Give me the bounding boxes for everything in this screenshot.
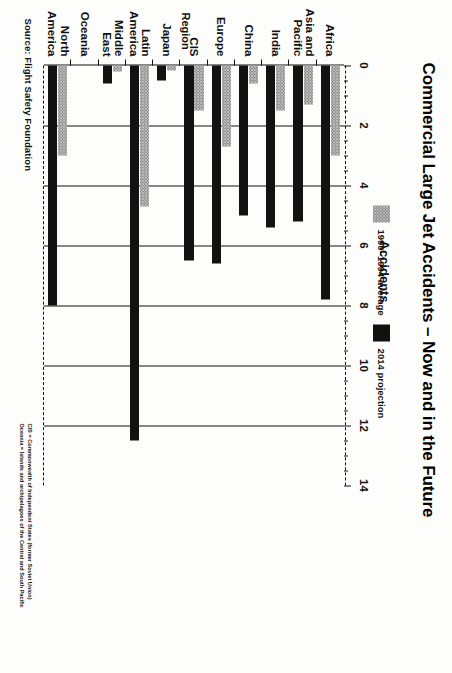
x-axis-tick-label: 10 <box>358 359 370 372</box>
x-axis-tick <box>344 125 351 126</box>
category-label: Asia and Pacific <box>291 8 316 56</box>
x-axis-minor-tick <box>344 380 349 381</box>
bar-average <box>276 65 285 110</box>
x-axis-minor-tick <box>344 290 349 291</box>
x-axis-minor-tick <box>344 275 349 276</box>
x-axis-minor-tick <box>344 170 349 171</box>
category-label: Japan <box>160 23 173 56</box>
axis-bottom-rule <box>43 65 44 485</box>
x-axis-tick <box>344 185 351 186</box>
category-label: Latin America <box>127 11 152 56</box>
legend-label: 2014 projection <box>376 348 387 418</box>
x-axis-minor-tick <box>344 80 349 81</box>
x-axis-minor-tick <box>344 200 349 201</box>
bar-projection <box>321 65 330 299</box>
x-axis-tick <box>344 365 351 366</box>
x-axis-tick-label: 6 <box>358 242 370 248</box>
bar-average <box>249 65 258 83</box>
footnote: CIS = Commonwealth of Independent States… <box>18 423 33 607</box>
x-axis-minor-tick <box>344 335 349 336</box>
bar-projection <box>48 65 57 305</box>
x-axis-tick <box>344 245 351 246</box>
category-label: North America <box>45 11 70 56</box>
category-label: Oceania <box>79 11 92 56</box>
x-axis-minor-tick <box>344 350 349 351</box>
bar-average <box>113 65 122 71</box>
bar-average <box>222 65 231 146</box>
x-axis-minor-tick <box>344 410 349 411</box>
x-axis-tick-label: 8 <box>358 302 370 308</box>
bar-average <box>167 65 176 70</box>
x-axis-tick <box>344 425 351 426</box>
x-axis-minor-tick <box>344 395 349 396</box>
footnote-line-oceania: Oceania = Islands and archipelagoes of t… <box>18 423 26 607</box>
legend-swatch-icon-light <box>373 205 390 222</box>
chart-title: Commercial Large Jet Accidents – Now and… <box>418 62 438 517</box>
x-axis-tick <box>344 65 351 66</box>
y-axis-tick <box>70 59 71 65</box>
bar-projection <box>130 65 139 440</box>
bar-projection <box>184 65 193 260</box>
category-label: Middle East <box>100 20 125 56</box>
x-axis-minor-tick <box>344 320 349 321</box>
x-axis-label: Accidents <box>377 240 392 302</box>
bar-projection <box>294 65 303 221</box>
x-axis-minor-tick <box>344 155 349 156</box>
plot-wrapper: Accidents Region 02468101214AfricaAsia a… <box>44 64 344 485</box>
y-axis-tick <box>316 59 317 65</box>
x-axis-tick <box>344 485 351 486</box>
bar-average <box>304 65 313 104</box>
x-axis-tick-label: 12 <box>358 419 370 432</box>
bar-average <box>140 65 149 206</box>
source-credit: Source: Flight Safety Foundation <box>23 18 34 171</box>
bar-projection <box>212 65 221 263</box>
y-axis-tick <box>125 59 126 65</box>
x-axis-tick-label: 2 <box>358 122 370 128</box>
plot-area: 02468101214AfricaAsia and PacificIndiaCh… <box>44 64 344 485</box>
x-axis-tick-label: 14 <box>358 479 370 492</box>
legend-item-2014-projection: 2014 projection <box>373 324 390 418</box>
x-axis-minor-tick <box>344 215 349 216</box>
gridline <box>44 425 344 426</box>
y-axis-tick <box>98 59 99 65</box>
footnote-line-cis: CIS = Commonwealth of Independent States… <box>26 423 34 607</box>
x-axis-tick-label: 0 <box>358 62 370 68</box>
x-axis-minor-tick <box>344 110 349 111</box>
bar-projection <box>266 65 275 227</box>
category-label: India <box>270 29 283 56</box>
figure: Source: Flight Safety Foundation Commerc… <box>0 0 452 673</box>
category-label: Europe <box>215 16 228 56</box>
y-axis-tick <box>179 59 180 65</box>
x-axis-minor-tick <box>344 455 349 456</box>
bar-projection <box>239 65 248 215</box>
x-axis-minor-tick <box>344 140 349 141</box>
x-axis-tick <box>344 305 351 306</box>
x-axis-minor-tick <box>344 230 349 231</box>
gridline <box>44 365 344 366</box>
chart-legend: 1990–1994 average 2014 projection <box>373 205 390 418</box>
legend-swatch-icon-dark <box>373 324 390 341</box>
x-axis-tick-label: 4 <box>358 182 370 188</box>
bar-projection <box>103 65 112 83</box>
y-axis-tick <box>152 59 153 65</box>
bar-average <box>195 65 204 110</box>
x-axis-minor-tick <box>344 470 349 471</box>
bar-projection <box>157 65 166 80</box>
category-label: China <box>242 24 255 56</box>
gridline <box>44 305 344 306</box>
x-axis-minor-tick <box>344 95 349 96</box>
bar-average <box>58 65 67 155</box>
rotated-page-canvas: Source: Flight Safety Foundation Commerc… <box>0 0 452 673</box>
category-label: Africa <box>324 23 337 56</box>
y-axis-tick <box>261 59 262 65</box>
x-axis-minor-tick <box>344 440 349 441</box>
y-axis-tick <box>288 59 289 65</box>
bar-average <box>331 65 340 155</box>
x-axis-minor-tick <box>344 260 349 261</box>
category-label: CIS <box>188 37 201 56</box>
y-axis-tick <box>234 59 235 65</box>
gridline <box>44 245 344 246</box>
y-axis-tick <box>207 59 208 65</box>
